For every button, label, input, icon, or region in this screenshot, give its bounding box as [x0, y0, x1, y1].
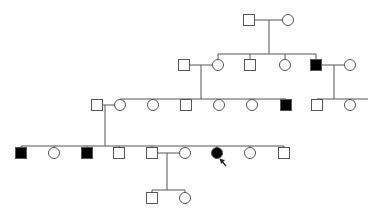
affected-male-square [311, 60, 322, 71]
female-circle [283, 15, 294, 26]
affected-male-square [82, 148, 93, 159]
proband-arrow-icon [220, 159, 226, 166]
male-square [181, 100, 192, 111]
female-circle [245, 148, 256, 159]
female-circle [345, 100, 356, 111]
female-circle [115, 100, 126, 111]
male-square [114, 148, 125, 159]
male-square [147, 148, 158, 159]
affected-female-circle-proband [212, 148, 223, 159]
female-circle [180, 148, 191, 159]
female-circle [247, 100, 258, 111]
individuals [16, 15, 356, 204]
male-square [279, 148, 290, 159]
male-square [245, 60, 256, 71]
female-circle [213, 60, 224, 71]
affected-male-square [281, 100, 292, 111]
male-square [92, 100, 103, 111]
male-square [179, 60, 190, 71]
female-circle [148, 100, 159, 111]
female-circle [280, 60, 291, 71]
pedigree-diagram [0, 0, 382, 215]
female-circle [180, 193, 191, 204]
female-circle [49, 148, 60, 159]
male-square [147, 193, 158, 204]
female-circle [214, 100, 225, 111]
male-square [312, 100, 323, 111]
male-square [244, 15, 255, 26]
female-circle [345, 60, 356, 71]
affected-male-square [16, 148, 27, 159]
